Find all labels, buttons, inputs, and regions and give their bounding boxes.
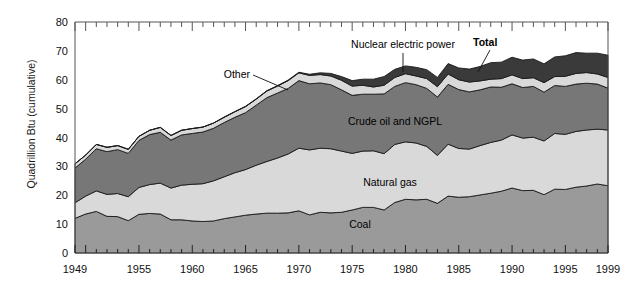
y-tick-label: 70 xyxy=(56,45,68,57)
band-label-total: Total xyxy=(473,36,497,48)
x-tick-label: 1999 xyxy=(596,263,620,275)
x-tick-label: 1949 xyxy=(63,263,87,275)
x-tick-label: 1960 xyxy=(180,263,204,275)
y-tick-label: 40 xyxy=(56,132,68,144)
band-label-nuclear: Nuclear electric power xyxy=(351,38,455,50)
x-tick-label: 1975 xyxy=(340,263,364,275)
y-tick-label: 10 xyxy=(56,218,68,230)
band-label-other: Other xyxy=(224,68,251,80)
x-tick-label: 1970 xyxy=(287,263,311,275)
plot-area-container: 01020304050607080 1949195519601965197019… xyxy=(0,0,643,284)
stacked-area-chart: 01020304050607080 1949195519601965197019… xyxy=(0,0,643,284)
band-label-crude-oil: Crude oil and NGPL xyxy=(348,115,442,127)
chart-figure: Quadrillion Btu (cumulative) 01020304050… xyxy=(0,0,643,284)
area-bands xyxy=(75,53,608,253)
x-tick-label: 1990 xyxy=(500,263,524,275)
band-label-natural-gas: Natural gas xyxy=(363,176,417,188)
y-tick-label: 30 xyxy=(56,160,68,172)
band-label-coal: Coal xyxy=(349,218,371,230)
y-axis-ticks: 01020304050607080 xyxy=(56,16,75,259)
y-tick-label: 50 xyxy=(56,103,68,115)
x-tick-label: 1985 xyxy=(447,263,471,275)
x-tick-label: 1965 xyxy=(233,263,257,275)
y-tick-label: 80 xyxy=(56,16,68,28)
y-tick-label: 0 xyxy=(62,247,68,259)
x-tick-label: 1955 xyxy=(127,263,151,275)
x-tick-label: 1995 xyxy=(553,263,577,275)
y-tick-label: 60 xyxy=(56,74,68,86)
y-tick-label: 20 xyxy=(56,189,68,201)
x-tick-label: 1980 xyxy=(393,263,417,275)
